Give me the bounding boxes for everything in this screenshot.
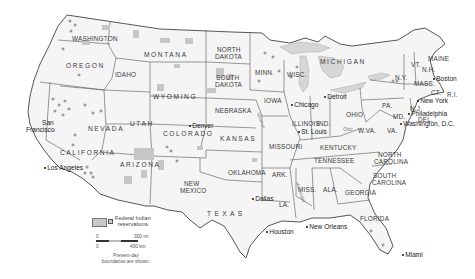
state-label: MONTANA	[144, 52, 188, 59]
state-label: MICHIGAN	[320, 59, 366, 66]
city-name: San	[42, 119, 54, 126]
state-label: ILLINOIS	[292, 121, 320, 127]
state-label: VA.	[387, 128, 397, 134]
state-label: MAINE	[428, 56, 449, 62]
city-label: Philadelphia	[407, 111, 447, 118]
city-label: New York	[416, 98, 448, 105]
city-name: Boston	[436, 75, 457, 82]
state-label: WYOMING	[153, 94, 197, 101]
city-name: St. Louis	[301, 128, 327, 135]
state-label: R.I.	[447, 92, 458, 98]
city-name: New Orleans	[309, 223, 347, 230]
city-label: Denver	[188, 123, 213, 130]
state-label: CAROLINA	[374, 159, 408, 165]
city-dot-icon	[298, 131, 300, 133]
city-dot-icon	[252, 198, 254, 200]
city-name: Washington, D.C.	[403, 120, 454, 127]
state-label: KENTUCKY	[320, 145, 356, 151]
city-name: Detroit	[327, 93, 346, 100]
scale-mi-start: 0	[96, 234, 99, 239]
legend-label-line2: reservations	[115, 221, 151, 227]
scale-km-end: 400 km	[130, 244, 146, 249]
state-label: N.H.	[422, 67, 436, 73]
city-name: New York	[420, 97, 448, 104]
city-name: Chicago	[294, 101, 318, 108]
state-label: UTAH	[130, 121, 154, 128]
state-label: PA.	[382, 103, 392, 109]
city-dot-icon	[408, 113, 410, 115]
state-label: KANSAS	[220, 136, 256, 143]
state-label: N.Y.	[395, 75, 407, 81]
city-name: Houston	[269, 228, 294, 235]
city-name: Philadelphia	[411, 110, 447, 117]
scale-bar-graphic	[96, 240, 138, 242]
city-label: Chicago	[290, 102, 318, 109]
state-label: MISSOURI	[269, 144, 302, 150]
state-label: FLORIDA	[360, 216, 389, 222]
river-label: Ohio	[343, 128, 353, 133]
state-label: WISC.	[287, 72, 306, 78]
city-label: Boston	[432, 76, 457, 83]
state-label: MEXICO	[180, 188, 206, 194]
state-label: ALA.	[323, 187, 338, 193]
state-label: ARK.	[272, 172, 288, 178]
state-label: IDAHO	[115, 72, 136, 78]
city-name: Los Angeles	[47, 164, 83, 171]
state-label: IOWA	[264, 98, 282, 104]
city-label: Miami	[401, 252, 423, 259]
state-label: LA.	[279, 202, 289, 208]
city-label: Houston	[265, 229, 294, 236]
city-dot-icon	[189, 125, 191, 127]
state-label: WASHINGTON	[72, 36, 118, 42]
us-map: WASHINGTONOREGONIDAHOMONTANAWYOMINGNORTH…	[0, 0, 475, 279]
city-label: Detroit	[323, 94, 347, 101]
city-dot-icon	[417, 100, 419, 102]
city-label: St. Louis	[297, 129, 327, 136]
state-label: DAKOTA	[215, 82, 242, 88]
city-name: Francisco	[26, 126, 55, 133]
state-label: CALIFORNIA	[60, 150, 116, 157]
state-label: TEXAS	[207, 211, 246, 218]
city-label: Los Angeles	[43, 165, 83, 172]
state-label: DAKOTA	[215, 54, 242, 60]
state-label: OKLAHOMA	[228, 170, 266, 176]
note-line2: boundaries are shown.	[93, 259, 159, 265]
city-label: Washington, D.C.	[399, 121, 455, 128]
state-label: W.VA.	[358, 128, 376, 134]
state-label: COLORADO	[163, 131, 214, 138]
state-label: TENNESSEE	[314, 158, 355, 164]
city-name: Dallas	[255, 195, 273, 202]
state-label: IND.	[317, 121, 331, 127]
boundary-note: Present-day boundaries are shown.	[93, 253, 159, 265]
scale-mi-end: 300 mi	[134, 234, 148, 239]
state-label: GEORGIA	[345, 190, 376, 196]
reservation-marker-icon	[108, 219, 113, 224]
city-dot-icon	[402, 254, 404, 256]
state-label: NEVADA	[88, 126, 124, 133]
legend-label: Federal Indian reservations	[115, 215, 151, 227]
state-label: NEBRASKA	[215, 108, 251, 114]
city-label: Dallas	[251, 196, 274, 203]
city-dot-icon	[291, 104, 293, 106]
city-label: Francisco	[26, 127, 55, 134]
state-label: VT.	[411, 62, 421, 68]
city-dot-icon	[44, 167, 46, 169]
state-label: CT.	[431, 90, 441, 96]
city-dot-icon	[266, 231, 268, 233]
state-label: CAROLINA	[372, 180, 406, 186]
reservation-swatch	[92, 218, 107, 227]
city-name: Miami	[405, 251, 423, 258]
city-dot-icon	[306, 226, 308, 228]
state-label: ARIZONA	[120, 162, 161, 169]
scale-km-start: 0	[96, 244, 99, 249]
city-dot-icon	[400, 123, 402, 125]
city-dot-icon	[324, 96, 326, 98]
state-label: OREGON	[66, 63, 105, 70]
city-label: New Orleans	[305, 224, 347, 231]
state-label: MINN.	[255, 70, 274, 76]
city-dot-icon	[433, 78, 435, 80]
city-name: Denver	[192, 122, 213, 129]
state-label: OHIO	[346, 112, 363, 118]
